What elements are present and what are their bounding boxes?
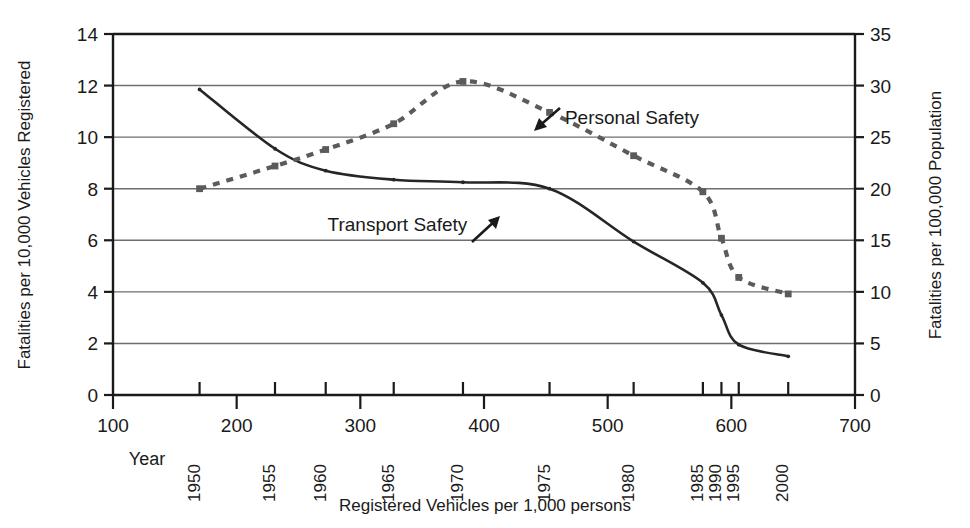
- right-axis-tick-label: 25: [870, 127, 891, 148]
- right-axis-tick-label: 10: [870, 282, 891, 303]
- left-axis-tick-label: 2: [87, 333, 98, 354]
- right-axis-tick-label: 5: [870, 333, 881, 354]
- year-tick-label: 1990: [706, 464, 725, 502]
- year-tick-label: 1950: [185, 464, 204, 502]
- data-point-marker: [720, 313, 724, 317]
- right-axis-tick-label: 20: [870, 179, 891, 200]
- right-axis-tick-label: 0: [870, 385, 881, 406]
- data-point-marker: [786, 354, 790, 358]
- year-tick-label: 1960: [311, 464, 330, 502]
- transport-safety-label: Transport Safety: [328, 214, 468, 235]
- data-point-marker: [322, 146, 329, 153]
- data-point-marker: [718, 235, 725, 242]
- left-axis-tick-label: 6: [87, 230, 98, 251]
- year-tick-label: 1955: [260, 464, 279, 502]
- x-axis-tick-label: 400: [468, 415, 500, 436]
- data-point-marker: [701, 281, 705, 285]
- x-axis-tick-label: 200: [221, 415, 253, 436]
- bottom-axis-title: Registered Vehicles per 1,000 persons: [339, 496, 631, 515]
- data-point-marker: [737, 343, 741, 347]
- data-point-marker: [392, 178, 396, 182]
- year-tick-label: 1985: [688, 464, 707, 502]
- personal-safety-label: Personal Safety: [565, 107, 700, 128]
- data-point-marker: [548, 187, 552, 191]
- x-axis-tick-label: 700: [839, 415, 871, 436]
- data-point-marker: [785, 291, 792, 298]
- data-point-marker: [324, 169, 328, 173]
- chart-container: 02468101214 05101520253035 1002003004005…: [0, 0, 970, 528]
- year-tick-label: 1995: [724, 464, 743, 502]
- data-point-marker: [630, 152, 637, 159]
- left-axis-tick-label: 14: [77, 24, 99, 45]
- right-axis-tick-label: 30: [870, 76, 891, 97]
- left-axis-tick-label: 8: [87, 179, 98, 200]
- left-axis-tick-label: 12: [77, 76, 98, 97]
- year-tick-label: 2000: [773, 464, 792, 502]
- left-axis-tick-label: 4: [87, 282, 98, 303]
- right-axis-tick-label: 35: [870, 24, 891, 45]
- data-point-marker: [272, 163, 279, 170]
- x-axis-tick-label: 100: [97, 415, 129, 436]
- left-axis-tick-label: 0: [87, 385, 98, 406]
- data-point-marker: [735, 274, 742, 281]
- right-axis-tick-label: 15: [870, 230, 891, 251]
- data-point-marker: [390, 120, 397, 127]
- data-point-marker: [461, 180, 465, 184]
- year-row-title: Year: [129, 449, 165, 469]
- data-point-marker: [273, 147, 277, 151]
- data-point-marker: [699, 188, 706, 195]
- x-axis-tick-label: 300: [344, 415, 376, 436]
- left-axis-title: Fatalities per 10,000 Vehicles Registere…: [15, 60, 34, 369]
- data-point-marker: [632, 240, 636, 244]
- data-point-marker: [198, 88, 202, 92]
- left-axis-tick-label: 10: [77, 127, 98, 148]
- x-axis-tick-label: 500: [592, 415, 624, 436]
- dual-axis-line-chart: 02468101214 05101520253035 1002003004005…: [0, 0, 970, 528]
- data-point-marker: [460, 78, 467, 85]
- right-axis-title: Fatalities per 100,000 Population: [926, 91, 945, 340]
- x-axis-tick-label: 600: [715, 415, 747, 436]
- data-point-marker: [196, 185, 203, 192]
